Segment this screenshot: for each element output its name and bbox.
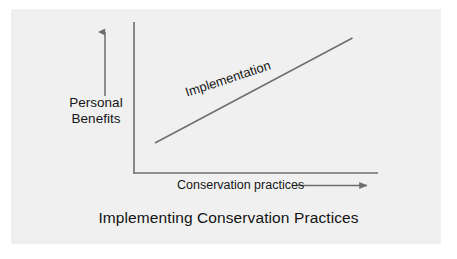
y-axis-label-line1: Personal	[62, 95, 130, 111]
figure-caption: Implementing Conservation Practices	[0, 209, 457, 227]
y-axis-label: Personal Benefits	[62, 95, 130, 126]
x-axis-label: Conservation practices	[177, 178, 304, 192]
y-axis-label-line2: Benefits	[62, 111, 130, 127]
figure-page: Personal Benefits Conservation practices…	[0, 0, 457, 259]
